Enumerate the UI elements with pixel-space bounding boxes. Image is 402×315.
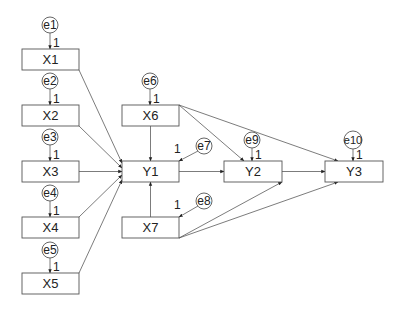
path-weight: 1: [356, 148, 363, 162]
error-term-e5: e51: [42, 242, 60, 274]
path-x7-to-y2: [179, 182, 282, 238]
error-arrow: [179, 206, 198, 217]
variable-label: X5: [43, 276, 59, 291]
variable-label: X1: [43, 52, 59, 67]
path-weight: 1: [53, 260, 60, 274]
error-label: e9: [245, 133, 259, 147]
variable-x1: X1: [22, 49, 79, 70]
error-term-e6: e61: [142, 73, 160, 106]
path-x5-to-y1: [79, 180, 122, 273]
path-weight: 1: [53, 204, 60, 218]
error-term-e1: e11: [42, 17, 60, 50]
path-x1-to-y1: [79, 70, 122, 163]
variable-label: X2: [43, 108, 59, 123]
path-diagram: X1X2X3X4X5X6Y1X7Y2Y3 e11e21e31e41e51e61e…: [0, 0, 402, 315]
error-term-e10: e101: [344, 131, 363, 162]
path-weight: 1: [255, 148, 262, 162]
path-arrows: [79, 70, 338, 273]
error-term-e9: e91: [244, 132, 262, 162]
error-label: e8: [197, 194, 211, 208]
path-weight: 1: [174, 198, 181, 212]
variable-y1: Y1: [122, 161, 179, 182]
path-weight: 1: [53, 92, 60, 106]
path-weight: 1: [53, 36, 60, 50]
variable-label: Y2: [245, 164, 261, 179]
error-term-e3: e31: [42, 129, 60, 162]
variable-x2: X2: [22, 105, 79, 126]
error-label: e6: [143, 74, 157, 88]
path-weight: 1: [53, 148, 60, 162]
error-term-e2: e21: [42, 73, 60, 106]
variable-y3: Y3: [325, 161, 383, 182]
error-label: e5: [43, 243, 57, 257]
path-x4-to-y1: [79, 175, 122, 217]
variable-label: X6: [143, 108, 159, 123]
error-label: e3: [43, 130, 57, 144]
path-x6-to-y2: [179, 105, 244, 161]
error-label: e10: [344, 134, 362, 146]
variable-label: X7: [143, 220, 159, 235]
error-label: e7: [197, 139, 211, 153]
error-arrow: [179, 151, 198, 161]
path-weight: 1: [174, 142, 181, 156]
variable-y2: Y2: [224, 161, 282, 182]
error-label: e1: [43, 18, 57, 32]
variable-x4: X4: [22, 217, 79, 238]
error-label: e2: [43, 74, 57, 88]
path-weight: 1: [153, 92, 160, 106]
variable-label: X3: [43, 164, 59, 179]
error-term-e4: e41: [42, 185, 60, 218]
path-x7-to-y3: [179, 182, 338, 238]
path-x2-to-y1: [79, 126, 122, 168]
variable-label: Y3: [346, 164, 362, 179]
variable-x5: X5: [22, 273, 79, 294]
variable-label: Y1: [143, 164, 159, 179]
variable-label: X4: [43, 220, 59, 235]
error-label: e4: [43, 186, 57, 200]
variable-x7: X7: [122, 217, 179, 238]
error-terms: e11e21e31e41e51e61e71e81e91e101: [42, 17, 363, 274]
variable-x3: X3: [22, 161, 79, 182]
variable-x6: X6: [122, 105, 179, 126]
